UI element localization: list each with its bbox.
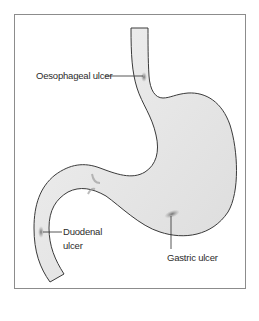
duodenal-ulcer-label-line1: Duodenal [63,226,102,238]
stomach-illustration [0,0,259,321]
oesophageal-ulcer-label: Oesophageal ulcer [36,70,112,82]
duodenal-ulcer-label-line2: ulcer [63,240,83,252]
oesophageal-ulcer-spot [141,72,147,82]
gastric-ulcer-label: Gastric ulcer [167,252,218,264]
